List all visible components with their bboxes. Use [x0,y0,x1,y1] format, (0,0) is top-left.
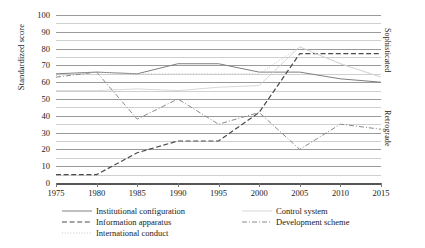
legend-label: Institutional configuration [96,206,185,216]
series-line-information-apparatus [56,54,381,175]
right-axis-label-sophisticated: Sophisticated [383,28,392,72]
y-axis-tick-label: 70 [24,61,50,70]
legend-label: Development scheme [276,217,349,227]
chart-legend: Institutional configurationInformation a… [62,206,412,246]
plot-area [56,15,381,183]
x-axis-tick-labels: 197519801985199019952000200520102015 [56,188,381,202]
y-axis-tick-label: 40 [24,112,50,121]
x-axis-tick-mark [137,183,138,187]
x-axis-tick-mark [340,183,341,187]
series-line-institutional-configuration [56,64,381,82]
legend-entry[interactable]: Development scheme [242,217,349,227]
right-axis-label-retrograde: Retrograde [383,110,392,147]
series-line-development-scheme [56,72,381,149]
y-axis-tick-label: 20 [24,145,50,154]
y-axis-tick-label: 30 [24,128,50,137]
x-axis-tick-label: 2015 [361,188,401,199]
legend-swatch-icon [242,207,272,215]
x-axis-tick-label: 2010 [320,188,360,199]
y-axis-tick-label: 60 [24,78,50,87]
x-axis-tick-label: 1990 [158,188,198,199]
legend-entry[interactable]: Institutional configuration [62,206,185,216]
x-axis-tick-label: 1995 [199,188,239,199]
x-axis-tick-mark [300,183,301,187]
y-axis-tick-label: 10 [24,162,50,171]
legend-label: Control system [276,206,328,216]
x-axis-tick-label: 1975 [36,188,76,199]
legend-label: Information apparatus [96,217,171,227]
y-axis-tick-label: 50 [24,95,50,104]
series-lines [56,15,381,183]
x-axis-tick-label: 2005 [280,188,320,199]
y-axis-tick-labels: 0102030405060708090100 [24,0,50,248]
x-axis-tick-mark [219,183,220,187]
x-axis-tick-label: 2000 [239,188,279,199]
legend-swatch-icon [62,218,92,226]
x-axis-tick-mark [178,183,179,187]
x-axis-tick-mark [381,183,382,187]
legend-entry[interactable]: Information apparatus [62,217,171,227]
legend-entry[interactable]: International conduct [62,228,168,238]
x-axis-tick-mark [56,183,57,187]
x-axis-tick-label: 1980 [77,188,117,199]
x-axis-tick-mark [259,183,260,187]
y-axis-tick-label: 100 [24,11,50,20]
y-axis-tick-label: 90 [24,28,50,37]
legend-entry[interactable]: Control system [242,206,328,216]
y-axis-tick-label: 0 [24,179,50,188]
legend-swatch-icon [242,218,272,226]
x-axis-tick-label: 1985 [117,188,157,199]
x-axis-tick-mark [97,183,98,187]
legend-label: International conduct [96,228,168,238]
line-chart: Standardized score 010203040506070809010… [0,0,425,248]
legend-swatch-icon [62,207,92,215]
y-axis-tick-label: 80 [24,44,50,53]
legend-swatch-icon [62,229,92,237]
